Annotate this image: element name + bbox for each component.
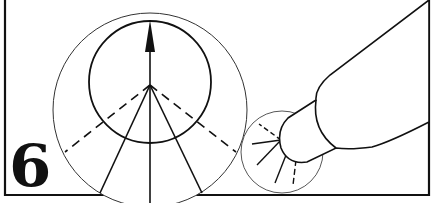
nozzle-tip: [280, 0, 429, 162]
step-illustration: 6: [0, 0, 433, 203]
diagram-canvas: [0, 0, 433, 203]
large-circle-detail: [53, 13, 247, 203]
step-number: 6: [9, 140, 49, 192]
